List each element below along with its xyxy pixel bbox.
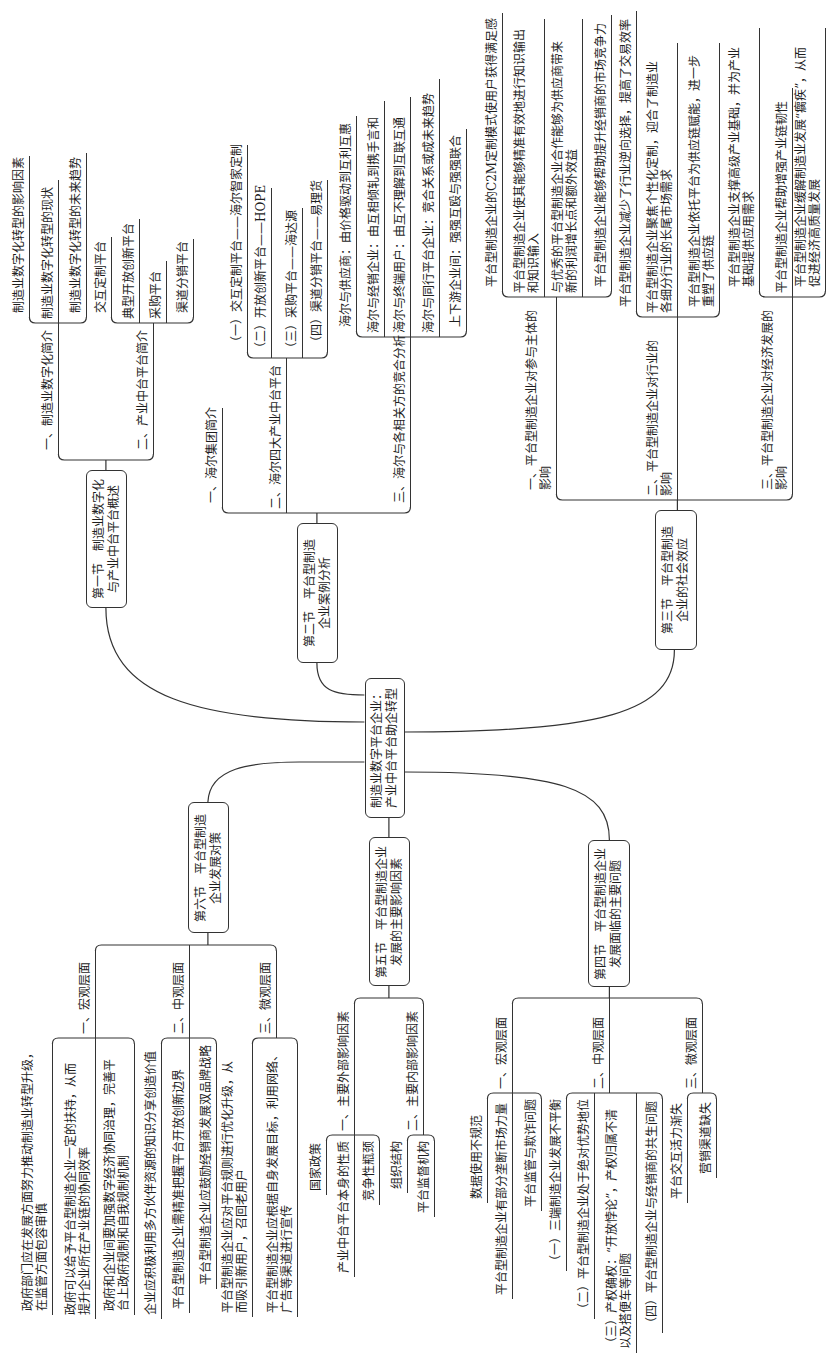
s4-topic-2-item-1: （一）三端制造企业发展不平衡 <box>549 1099 567 1271</box>
node-text: 平台型制造企业支撑高级产业基础，并为产业 <box>728 30 742 287</box>
node-text: 台上政府规制和自我规制机制 <box>117 1046 131 1311</box>
s6-topic-2-item-1: 企业应积极利用多方伙伴资源的知识分享创造价值 <box>144 1044 162 1319</box>
node-text: 平台型制造企业应鼓励经销商发展双品牌战略 <box>199 1046 213 1285</box>
node-text: 海尔与经销企业：由互相倾轧到携手言和 <box>367 103 381 333</box>
node-text: 在监管方面包容审慎 <box>35 1046 49 1311</box>
node-text: 提升企业所在产业链的协同效率 <box>78 1040 92 1315</box>
s2-topic-2-item-3: （三）采购平台——海达源 <box>285 208 303 358</box>
s6-topic-3: 三、微观层面 <box>259 951 277 1038</box>
s2-topic-2-item-2: （二）开放创新平台——HOPE <box>254 188 272 358</box>
node-text: 制造业数字化转型的未来趋势 <box>69 155 83 313</box>
s2-topic-2: 二、海尔四大产业中台平台 <box>269 358 287 513</box>
central-topic-box: 制造业数字平台企业： 产业中台平台助企转型 <box>365 678 405 818</box>
s1-topic-2-item-2: 典型开放创新平台 <box>122 219 140 323</box>
s1-topic-2: 二、产业中台平台简介 <box>136 323 154 454</box>
node-text: 营销渠道缺失 <box>699 1101 713 1174</box>
node-text: 海尔与终端用户：由互不理解到互联互通 <box>393 99 407 333</box>
section-5-box: 第五节 平台型制造企业 发展的主要影响因素 <box>369 837 410 986</box>
s4-topic-2: 二、中观层面 <box>592 998 610 1093</box>
s2-topic-1: 一、海尔集团简介 <box>205 408 223 507</box>
section-title-line: 企业的社会效应 <box>676 538 691 622</box>
mind-map-canvas: 制造业数字平台企业： 产业中台平台助企转型 第一节 制造业数字化 与产业中台平台… <box>0 0 829 1363</box>
s1-topic-1-item-2: 制造业数字化转型的现状 <box>41 180 59 323</box>
s2-topic-3-item-3: 海尔与终端用户：由互不理解到互联互通 <box>393 97 411 337</box>
s3-topic-1: 一、平台型制造企业对参与主体的影响 <box>525 297 557 494</box>
s3-topic-3-item-2: 平台型制造企业帮助增强产业链韧性 <box>775 88 793 297</box>
s5-topic-1-item-1: 国家政策 <box>309 1141 327 1195</box>
node-text: 影响 <box>660 319 674 496</box>
s4-topic-1-item-3: 平台监管与欺诈问题 <box>524 1099 542 1211</box>
node-text: 政府部门应在发展方面努力推动制造业转型升级， <box>21 1046 35 1311</box>
s3-topic-1-item-2: 平台型制造企业使其能够精准有效地进行知识输出和知识输入 <box>513 19 545 297</box>
node-text: 影响 <box>775 299 789 490</box>
node-text: 而吸引新用户，召回老用户 <box>235 1046 249 1313</box>
s5-topic-2-item-2: 平台监督机构 <box>417 1141 435 1217</box>
node-text: （四）渠道分销平台——易理货 <box>310 182 324 348</box>
s2-topic-2-item-1: （一）交互定制平台——海尔智家定制 <box>230 145 248 352</box>
s3-topic-3-item-3: 平台型制造企业缓解制造业发展“瘸疾”，从而促进经济高质量发展 <box>794 28 826 291</box>
s1-topic-1: 一、制造业数字化简介 <box>41 323 59 454</box>
section-title-line: 发展面临的主要问题 <box>609 860 624 968</box>
node-text: 二、海尔四大产业中台平台 <box>269 360 283 509</box>
node-text: 促进经济高质量发展 <box>808 30 822 287</box>
s1-topic-2-item-1: 交互定制平台 <box>94 237 112 317</box>
s4-topic-2-item-2: （二）平台型制造企业处于绝对优势地位 <box>577 1093 595 1319</box>
s6-topic-2-item-3: 平台型制造企业应鼓励经销商发展双品牌战略 <box>199 1044 217 1289</box>
node-text: 重塑了供应链 <box>702 45 716 307</box>
node-text: 与优秀的平台型制造企业合作能够为供应商带来 <box>551 21 565 293</box>
node-text: 平台型制造企业使其能够精准有效地进行知识输出 <box>513 21 527 293</box>
node-text: 一、主要外部影响因素 <box>337 1006 351 1131</box>
node-text: 制造业数字化转型的影响因素 <box>12 158 26 313</box>
node-text: 新的利润增长点和额外效益 <box>565 21 579 293</box>
section-title-line: 第二节 平台型制造 <box>303 539 318 647</box>
node-text: 数据使用不规范 <box>470 1101 484 1199</box>
s4-topic-3: 三、微观层面 <box>685 1004 703 1093</box>
s2-topic-3-item-5: 上下游企业间：强强互殴与强强联合 <box>449 129 467 331</box>
s1-topic-1-item-3: 制造业数字化转型的未来趋势 <box>69 153 87 317</box>
node-text: 平台型制造企业有部分垄断市场力量 <box>495 1095 509 1295</box>
s2-topic-3-item-2: 海尔与经销企业：由互相倾轧到携手言和 <box>367 101 385 337</box>
node-text: 平台型制造企业依托平台为供应链赋能，进一步 <box>688 45 702 307</box>
node-text: 一、宏观层面 <box>78 953 92 1034</box>
node-text: 国家政策 <box>309 1143 323 1191</box>
s6-topic-1-item-2: 政府可以给予平台型制造企业一定的扶持，从而提升企业所在产业链的协同效率 <box>64 1038 96 1319</box>
s6-topic-2: 二、中观层面 <box>172 945 190 1038</box>
s2-topic-3: 三、海尔与各相关方的竞合分析 <box>393 337 411 507</box>
s1-topic-2-item-3: 采购平台 <box>149 261 167 323</box>
node-text: 平台型制造企业能够帮助提升经销商的市场竞争力 <box>594 17 608 287</box>
s3-topic-2-item-1: 平台型制造企业减少了行业逆向选择，提高了交易效率 <box>619 11 637 311</box>
s4-topic-1-item-2: 平台型制造企业有部分垄断市场力量 <box>495 1093 513 1299</box>
s3-topic-2: 二、平台型制造企业对行业的影响 <box>646 317 678 500</box>
node-text: 广告等渠道进行宣传 <box>280 1046 294 1313</box>
section-title-line: 发展的主要影响因素 <box>390 858 405 966</box>
section-3-box: 第三节 平台型制造 企业的社会效应 <box>655 510 697 650</box>
node-text: 平台型制造企业帮助增强产业链韧性 <box>775 90 789 293</box>
section-6-box: 第六节 平台型制造 企业发展对策 <box>188 802 229 933</box>
section-title-line: 第四节 平台型制造企业 <box>594 848 609 980</box>
node-text: 海尔与同行平台企业：竞合关系或成未来趋势 <box>422 81 436 333</box>
node-text: 政府可以给予平台型制造企业一定的扶持，从而 <box>64 1040 78 1315</box>
s4-topic-1-item-1: 数据使用不规范 <box>470 1099 488 1203</box>
s5-topic-2-item-1: 组织结构 <box>390 1141 408 1193</box>
section-title-line: 第六节 平台型制造 <box>194 814 209 922</box>
node-text: 一、海尔集团简介 <box>205 410 219 503</box>
s5-topic-1: 一、主要外部影响因素 <box>337 1004 355 1135</box>
node-text: 三、海尔与各相关方的竞合分析 <box>393 339 407 503</box>
node-text: （二）平台型制造企业处于绝对优势地位 <box>577 1095 591 1315</box>
node-text: （三）产权确权：“开放悖论”，产权归属不清 <box>605 1095 619 1349</box>
node-text: （一）交互定制平台——海尔智家定制 <box>230 147 244 348</box>
section-title-line: 第三节 平台型制造 <box>661 526 676 634</box>
node-text: 基础提供应用需求 <box>742 30 756 287</box>
section-4-box: 第四节 平台型制造企业 发展面临的主要问题 <box>588 840 630 987</box>
s4-topic-2-item-4: （四）平台型制造企业与经销商的共生问题 <box>645 1099 663 1333</box>
node-text: 平台型制造企业的C2M定制模式使用户获得满足感 <box>485 15 499 287</box>
s3-topic-2-item-2: 平台型制造企业聚焦个性化定制，迎合了制造业各细分行业的长尾市场需求 <box>646 43 678 317</box>
section-title-line: 第一节 制造业数字化 <box>92 479 107 599</box>
s6-topic-3-item-1: 平台型制造企业应对平台规则进行优化升级，从而吸引新用户，召回老用户 <box>221 1044 253 1317</box>
section-1-box: 第一节 制造业数字化 与产业中台平台概述 <box>86 470 127 608</box>
s4-topic-3-item-1: 平台交互活力渐失 <box>670 1099 688 1203</box>
node-text: 海尔与供应商：由价格驱动到互利互惠 <box>339 118 353 327</box>
node-text: 一、平台型制造企业对参与主体的 <box>525 299 539 490</box>
node-text: 交互定制平台 <box>94 239 108 313</box>
central-topic-line: 制造业数字平台企业： <box>370 688 385 808</box>
